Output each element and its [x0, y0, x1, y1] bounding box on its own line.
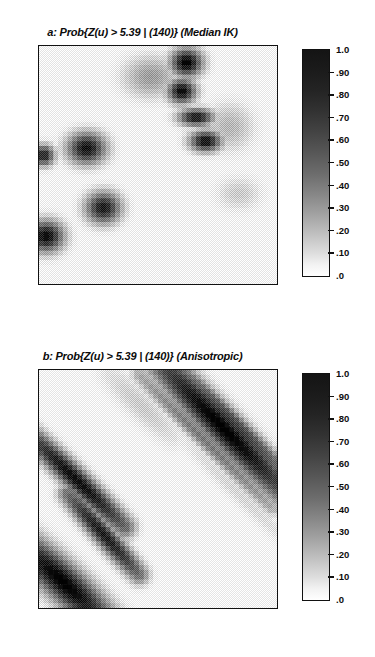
colorbar-tick-label: .60: [336, 458, 370, 469]
colorbar-tick-label: .40: [336, 503, 370, 514]
colorbar-tick-label: .0: [336, 594, 370, 605]
panel-b-colorbar-gradient: [302, 373, 330, 601]
colorbar-tick-label: .30: [336, 526, 370, 537]
panel-a-title: a: Prob{Z(u) > 5.39 | (140)} (Median IK): [0, 26, 285, 38]
colorbar-tick: [328, 441, 334, 442]
colorbar-tick-label: .50: [336, 481, 370, 492]
colorbar-tick: [328, 185, 334, 186]
figure-root: a: Prob{Z(u) > 5.39 | (140)} (Median IK)…: [0, 0, 375, 657]
colorbar-tick: [328, 463, 334, 464]
colorbar-tick-label: .80: [336, 89, 370, 100]
colorbar-tick: [328, 576, 334, 577]
colorbar-tick-label: .0: [336, 270, 370, 281]
colorbar-tick: [328, 72, 334, 73]
panel-b-colorbar-ticks: [328, 373, 334, 599]
colorbar-tick-label: .10: [336, 247, 370, 258]
colorbar-tick-label: .50: [336, 157, 370, 168]
colorbar-tick: [328, 509, 334, 510]
colorbar-tick-label: .30: [336, 202, 370, 213]
colorbar-tick-label: 1.0: [336, 44, 370, 55]
colorbar-tick: [328, 162, 334, 163]
panel-b-map-frame: [38, 369, 278, 609]
colorbar-tick-label: .90: [336, 66, 370, 77]
colorbar-tick-label: .70: [336, 111, 370, 122]
colorbar-tick-label: 1.0: [336, 368, 370, 379]
colorbar-tick: [328, 531, 334, 532]
colorbar-tick-label: .80: [336, 413, 370, 424]
panel-a-colorbar-ticks: [328, 49, 334, 275]
colorbar-tick-label: .90: [336, 390, 370, 401]
colorbar-tick-label: .20: [336, 548, 370, 559]
panel-a-heatmap: [39, 46, 277, 284]
colorbar-tick: [328, 117, 334, 118]
colorbar-tick-label: .40: [336, 179, 370, 190]
panel-b-colorbar-labels: 1.0.90.80.70.60.50.40.30.20.10.0: [336, 373, 370, 599]
colorbar-tick: [328, 486, 334, 487]
colorbar-tick: [328, 139, 334, 140]
colorbar-tick: [328, 252, 334, 253]
panel-a: a: Prob{Z(u) > 5.39 | (140)} (Median IK)…: [0, 26, 290, 288]
colorbar-tick: [328, 554, 334, 555]
colorbar-tick-label: .70: [336, 435, 370, 446]
colorbar-tick: [328, 230, 334, 231]
colorbar-tick: [328, 207, 334, 208]
panel-b-title: b: Prob{Z(u) > 5.39 | (140)} (Anisotropi…: [0, 350, 285, 362]
panel-a-colorbar-labels: 1.0.90.80.70.60.50.40.30.20.10.0: [336, 49, 370, 275]
panel-a-map-frame: [38, 45, 278, 285]
panel-a-colorbar: 1.0.90.80.70.60.50.40.30.20.10.0: [302, 49, 372, 275]
colorbar-tick: [328, 396, 334, 397]
colorbar-tick-label: .10: [336, 571, 370, 582]
colorbar-tick-label: .20: [336, 224, 370, 235]
colorbar-tick: [328, 94, 334, 95]
panel-b: b: Prob{Z(u) > 5.39 | (140)} (Anisotropi…: [0, 350, 290, 612]
panel-b-colorbar: 1.0.90.80.70.60.50.40.30.20.10.0: [302, 373, 372, 599]
colorbar-tick: [328, 418, 334, 419]
panel-a-colorbar-gradient: [302, 49, 330, 277]
colorbar-tick-label: .60: [336, 134, 370, 145]
panel-b-heatmap: [39, 370, 277, 608]
